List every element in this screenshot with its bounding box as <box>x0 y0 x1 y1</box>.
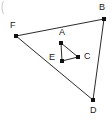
inner-triangle-edges <box>61 43 78 61</box>
edge-D-F <box>16 36 93 100</box>
edge-E-C <box>62 57 78 61</box>
vertex-label-e: E <box>49 53 55 62</box>
vertex-dot-a[interactable] <box>59 41 63 45</box>
vertex-label-f: F <box>10 21 16 30</box>
vertex-label-a: A <box>59 28 65 37</box>
vertex-dot-e[interactable] <box>60 59 64 63</box>
figure-canvas <box>0 0 112 120</box>
vertex-dot-d[interactable] <box>91 98 95 102</box>
vertex-dot-c[interactable] <box>76 55 80 59</box>
edge-B-D <box>93 19 104 100</box>
geometry-figure: ABCDEF <box>0 0 112 120</box>
vertex-label-d: D <box>90 106 97 115</box>
vertex-label-b: B <box>99 3 105 12</box>
edge-A-E <box>61 43 62 61</box>
edge-C-A <box>61 43 78 57</box>
vertex-dot-b[interactable] <box>102 17 106 21</box>
vertex-label-c: C <box>84 52 91 61</box>
vertex-dot-f[interactable] <box>14 34 18 38</box>
top-left-arc-icon <box>2 1 4 14</box>
